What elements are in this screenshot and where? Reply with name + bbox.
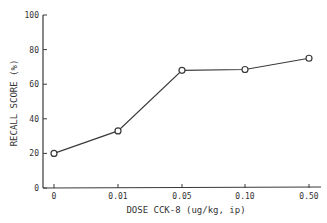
line-chart: 020406080100 00.010.050.100.50 DOSE CCK-…: [0, 0, 327, 223]
x-axis-title: DOSE CCK-8 (ug/kg, ip): [126, 205, 245, 215]
y-tick-label: 0: [34, 184, 39, 193]
y-tick-label: 20: [29, 149, 39, 158]
y-tick-label: 60: [29, 80, 39, 89]
x-tick-label: 0.10: [235, 192, 254, 201]
data-point-marker: [179, 67, 185, 73]
data-point-marker: [115, 128, 121, 134]
x-tick-label: 0: [52, 192, 57, 201]
x-tick-label: 0.01: [108, 192, 127, 201]
data-point-marker: [306, 55, 312, 61]
x-tick-label: 0.05: [172, 192, 191, 201]
data-point-marker: [51, 150, 57, 156]
axes: [43, 15, 321, 188]
y-tick-label: 40: [29, 115, 39, 124]
y-axis-ticks: 020406080100: [25, 11, 47, 193]
data-series: [51, 55, 312, 156]
y-axis-title: RECALL SCORE (%): [9, 60, 19, 147]
x-axis-ticks: 00.010.050.100.50: [52, 184, 319, 201]
y-tick-label: 80: [29, 46, 39, 55]
x-tick-label: 0.50: [299, 192, 318, 201]
data-point-marker: [242, 66, 248, 72]
y-tick-label: 100: [25, 11, 40, 20]
